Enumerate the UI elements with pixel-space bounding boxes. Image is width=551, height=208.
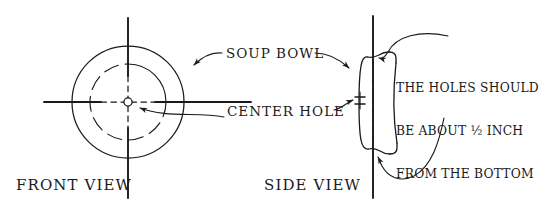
holes-note-line-2: BE ABOUT ½ INCH bbox=[396, 124, 539, 138]
holes-note-line-1: THE HOLES SHOULD bbox=[396, 81, 539, 95]
side-view-bowl-profile bbox=[359, 52, 390, 154]
front-view-center-hole bbox=[124, 98, 132, 106]
side-view-caption: SIDE VIEW bbox=[264, 176, 361, 194]
drawing-page: SOUP BOWL CENTER HOLE THE HOLES SHOULD B… bbox=[0, 0, 551, 208]
soup-bowl-label: SOUP BOWL bbox=[226, 45, 324, 61]
center-hole-label: CENTER HOLE bbox=[227, 103, 345, 119]
front-view-caption: FRONT VIEW bbox=[16, 176, 132, 194]
side-view-rim-top bbox=[389, 52, 396, 63]
soup-bowl-leader-left bbox=[194, 53, 222, 65]
front-view-inner-circle-solid bbox=[128, 64, 166, 102]
front-view-group bbox=[44, 18, 251, 198]
holes-note-block: THE HOLES SHOULD BE ABOUT ½ INCH FROM TH… bbox=[396, 52, 539, 208]
holes-note-line-3: FROM THE BOTTOM bbox=[396, 167, 539, 181]
